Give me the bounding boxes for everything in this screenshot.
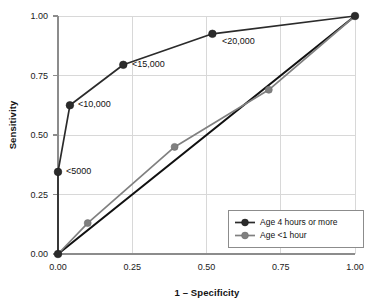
x-tick-label-1.00: 1.00 — [335, 262, 375, 272]
data-point-origin — [54, 250, 62, 258]
data-point — [351, 12, 359, 20]
y-tick-label-0.75: 0.75 — [14, 71, 48, 81]
data-point — [66, 102, 74, 110]
y-tick-label-1.00: 1.00 — [14, 11, 48, 21]
x-tick-label-0.75: 0.75 — [261, 262, 301, 272]
legend: Age 4 hours or more Age <1 hour — [228, 210, 364, 248]
y-axis-title: Sensitivity — [7, 95, 21, 155]
legend-item-age-under-1-hour: Age <1 hour — [234, 229, 357, 242]
legend-item-age-4-hours-or-more: Age 4 hours or more — [234, 216, 357, 229]
annotation-under-15000: <15,000 — [132, 59, 165, 69]
x-tick-label-0.50: 0.50 — [187, 262, 227, 272]
data-point — [54, 168, 62, 176]
data-point — [120, 61, 128, 69]
plot-area — [0, 0, 378, 300]
y-tick-label-0.00: 0.00 — [14, 249, 48, 259]
legend-swatch-grey — [234, 230, 256, 241]
annotation-under-10000: <10,000 — [78, 99, 111, 109]
annotation-under-20000: <20,000 — [222, 36, 255, 46]
roc-chart: 1.00 0.75 0.50 0.25 0.00 0.00 0.25 0.50 … — [0, 0, 378, 300]
x-tick-label-0.00: 0.00 — [38, 262, 78, 272]
y-tick-label-0.25: 0.25 — [14, 190, 48, 200]
legend-label-age-4-hours-or-more: Age 4 hours or more — [260, 217, 337, 228]
x-tick-label-0.25: 0.25 — [112, 262, 152, 272]
legend-label-age-under-1-hour: Age <1 hour — [260, 230, 307, 241]
legend-swatch-dark — [234, 217, 256, 228]
data-point — [209, 30, 217, 38]
data-point — [84, 220, 91, 227]
x-axis-title: 1 – Specificity — [0, 287, 378, 298]
annotation-under-5000: <5000 — [66, 166, 91, 176]
data-point — [171, 143, 178, 150]
data-point — [265, 86, 272, 93]
